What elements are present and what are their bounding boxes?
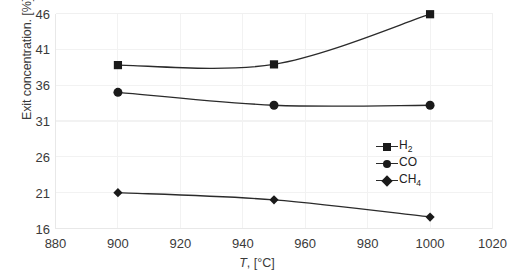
legend-marker-circle-icon <box>376 157 398 171</box>
x-tick-label: 960 <box>275 236 335 251</box>
y-axis-label: Exit concentration. [%] <box>20 0 34 159</box>
x-tick-label: 1020 <box>463 236 514 251</box>
legend: H2 CO CH4 <box>376 138 421 189</box>
legend-marker-diamond-icon <box>376 174 398 188</box>
x-tick-label: 940 <box>213 236 273 251</box>
x-axis-label: T, [°C] <box>0 256 514 270</box>
x-tick-label: 980 <box>338 236 398 251</box>
legend-item-h2: H2 <box>376 138 421 155</box>
x-tick-label: 900 <box>88 236 148 251</box>
x-axis-ticks: 88090092094096098010001020 <box>0 0 514 279</box>
chart-container: 46413631262116 8809009209409609801000102… <box>0 0 514 279</box>
legend-label-co: CO <box>399 155 417 171</box>
legend-item-co: CO <box>376 155 421 172</box>
x-tick-label: 880 <box>26 236 86 251</box>
legend-label-ch4: CH4 <box>399 172 421 188</box>
legend-label-h2: H2 <box>399 138 412 154</box>
legend-marker-square-icon <box>376 140 398 154</box>
x-axis-label-symbol: T <box>239 256 247 270</box>
x-axis-label-unit: , [°C] <box>247 256 275 270</box>
legend-item-ch4: CH4 <box>376 172 421 189</box>
x-tick-label: 1000 <box>400 236 460 251</box>
x-tick-label: 920 <box>150 236 210 251</box>
